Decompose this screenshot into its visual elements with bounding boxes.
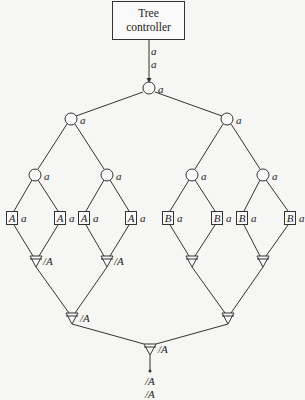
leaf-label: a <box>177 213 183 224</box>
controller-title-line2: controller <box>113 20 184 34</box>
combiner-label: /A <box>158 344 168 355</box>
node-label: a <box>116 171 122 182</box>
leaf-label: a <box>140 213 146 224</box>
leaf-node: B <box>284 211 296 225</box>
leaf-node: B <box>211 211 223 225</box>
leaf-label: a <box>226 213 232 224</box>
tree-controller-box: Tree controller <box>112 1 185 40</box>
node-label: a <box>236 115 242 126</box>
controller-title-line1: Tree <box>113 6 184 20</box>
combiner-label: /A <box>114 256 124 267</box>
leaf-label: a <box>251 213 257 224</box>
combiner-label: /A <box>43 256 53 267</box>
root-label: a <box>158 84 164 95</box>
node-label: a <box>44 171 50 182</box>
leaf-node: A <box>6 211 18 225</box>
node-label: a <box>80 115 86 126</box>
leaf-label: a <box>21 213 27 224</box>
root-node <box>143 82 155 94</box>
node-label: a <box>272 171 278 182</box>
input-signal-2: a <box>151 59 157 70</box>
output-signal-2: /A <box>145 389 155 400</box>
leaf-node: B <box>162 211 174 225</box>
leaf-node: A <box>54 211 66 225</box>
leaf-label: a <box>69 213 75 224</box>
leaf-node: B <box>236 211 248 225</box>
leaf-label: a <box>93 213 99 224</box>
leaf-node: A <box>78 211 90 225</box>
input-signal-1: a <box>151 46 157 57</box>
output-signal-1: /A <box>145 376 155 387</box>
combiner-label: /A <box>80 313 90 324</box>
leaf-node: A <box>125 211 137 225</box>
leaf-label: a <box>299 213 305 224</box>
node-label: a <box>201 171 207 182</box>
